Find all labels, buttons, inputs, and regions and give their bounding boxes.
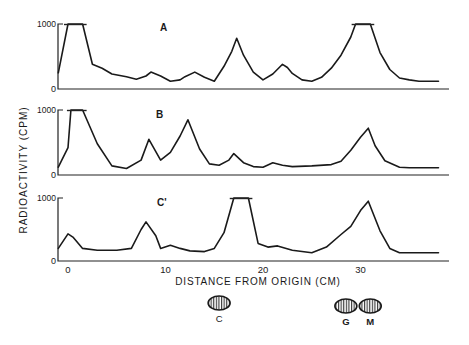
radioactivity-trace [58, 110, 438, 169]
panel-title: C' [157, 197, 167, 208]
marker-m: M [359, 299, 381, 327]
panel-c-prime: 10000C' [37, 193, 449, 266]
axis-lines [58, 24, 449, 89]
x-tick-label: 30 [355, 264, 366, 275]
panel-b: 10000B [37, 105, 449, 180]
y-tick-zero: 0 [51, 170, 56, 180]
x-tick-labels: 0102030 [65, 264, 365, 275]
panel-title: A [160, 22, 167, 33]
y-axis-label: RADIOACTIVITY (CPM) [18, 106, 29, 233]
marker-label: C [216, 313, 223, 324]
marker-label: G [342, 316, 349, 327]
y-tick-max: 1000 [37, 105, 56, 115]
marker-g: G [335, 299, 357, 327]
x-tick-label: 10 [160, 264, 171, 275]
panel-a: 10000A [37, 19, 449, 94]
axis-lines [58, 110, 449, 175]
radioactivity-trace [58, 24, 438, 81]
y-tick-zero: 0 [51, 84, 56, 94]
y-tick-max: 1000 [37, 193, 56, 203]
chromatogram-figure: RADIOACTIVITY (CPM) 10000A 10000B 10000C… [0, 0, 469, 345]
radioactivity-trace [58, 198, 438, 253]
marker-c: C [208, 296, 230, 324]
y-tick-zero: 0 [51, 256, 56, 266]
marker-spots: CGM [208, 296, 381, 327]
x-tick-label: 20 [258, 264, 269, 275]
axis-lines [58, 198, 449, 261]
marker-label: M [366, 316, 374, 327]
x-axis-label: DISTANCE FROM ORIGIN (CM) [175, 276, 340, 287]
panel-title: B [156, 109, 163, 120]
y-tick-max: 1000 [37, 19, 56, 29]
x-tick-label: 0 [65, 264, 70, 275]
